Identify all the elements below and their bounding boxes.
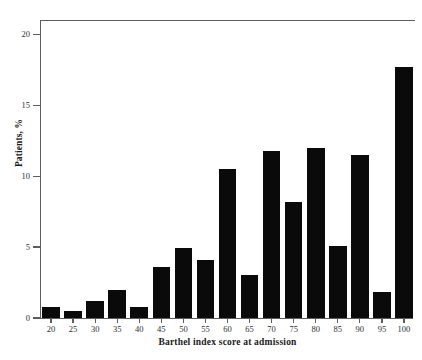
x-tick-mark xyxy=(227,318,228,323)
x-tick-mark xyxy=(139,318,140,323)
x-tick-mark xyxy=(359,318,360,323)
y-tick-mark xyxy=(33,246,40,247)
x-tick-mark xyxy=(95,318,96,323)
y-tick-label: 20 xyxy=(22,29,31,39)
y-tick-mark xyxy=(33,176,40,177)
y-tick-mark xyxy=(33,105,40,106)
y-tick-label: 15 xyxy=(22,100,31,110)
bar xyxy=(219,169,237,318)
bars-container xyxy=(40,20,415,318)
x-tick-mark xyxy=(161,318,162,323)
bar xyxy=(373,292,391,318)
bar xyxy=(329,246,347,318)
y-tick-label: 5 xyxy=(26,242,30,252)
y-tick-label: 10 xyxy=(22,171,31,181)
y-tick-mark xyxy=(33,317,40,318)
bar xyxy=(241,275,259,318)
bar xyxy=(86,301,104,318)
x-tick-mark xyxy=(315,318,316,323)
bar xyxy=(175,248,193,318)
x-tick-mark xyxy=(381,318,382,323)
x-tick-label: 100 xyxy=(390,324,418,334)
bar xyxy=(130,307,148,318)
x-tick-mark xyxy=(72,318,73,323)
y-tick-mark xyxy=(33,34,40,35)
x-axis-title: Barthel index score at admission xyxy=(40,337,415,347)
x-tick-mark xyxy=(403,318,404,323)
bar xyxy=(42,307,60,318)
bar-chart: Patients, % 05101520 2025303540455055606… xyxy=(0,0,422,360)
bar xyxy=(351,155,369,318)
bar xyxy=(307,148,325,318)
x-tick-mark xyxy=(183,318,184,323)
bar xyxy=(108,290,126,318)
x-tick-mark xyxy=(249,318,250,323)
x-tick-mark xyxy=(50,318,51,323)
x-tick-mark xyxy=(293,318,294,323)
bar xyxy=(64,311,82,318)
x-tick-mark xyxy=(205,318,206,323)
x-tick-mark xyxy=(117,318,118,323)
bar xyxy=(395,67,413,318)
x-tick-mark xyxy=(337,318,338,323)
bar xyxy=(153,267,171,318)
x-tick-mark xyxy=(271,318,272,323)
bar xyxy=(263,151,281,318)
y-tick-label: 0 xyxy=(26,313,30,323)
bar xyxy=(285,202,303,318)
bar xyxy=(197,260,215,318)
